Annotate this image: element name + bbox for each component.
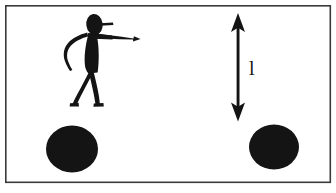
length-label: l bbox=[249, 57, 255, 79]
diagram-canvas: l bbox=[0, 0, 336, 193]
left-ball bbox=[46, 126, 98, 173]
arrow-shaft bbox=[237, 18, 240, 115]
person-left-foot-icon bbox=[70, 103, 79, 107]
right-ball bbox=[249, 125, 299, 170]
person-right-foot-icon bbox=[93, 103, 103, 107]
figure-root: l bbox=[0, 0, 336, 193]
